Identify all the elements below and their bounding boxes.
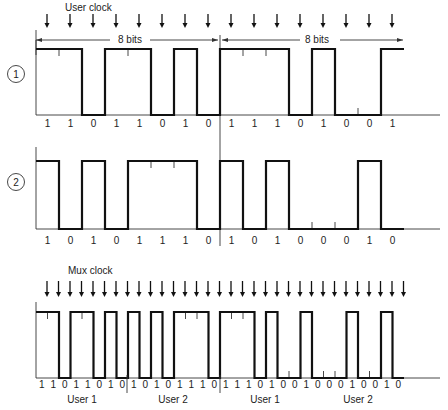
mux-group-label: User 1 (67, 394, 97, 405)
svg-text:1: 1 (229, 235, 235, 246)
svg-text:1: 1 (85, 379, 91, 390)
svg-text:1: 1 (131, 379, 137, 390)
svg-text:1: 1 (234, 379, 240, 390)
svg-text:1: 1 (160, 235, 166, 246)
svg-text:0: 0 (395, 379, 401, 390)
svg-text:0: 0 (165, 379, 171, 390)
svg-text:0: 0 (257, 379, 263, 390)
svg-text:1: 1 (39, 379, 45, 390)
user-clock-label: User clock (65, 2, 113, 13)
svg-text:1: 1 (275, 235, 281, 246)
svg-text:0: 0 (206, 118, 212, 129)
svg-text:1: 1 (45, 118, 51, 129)
svg-text:0: 0 (96, 379, 102, 390)
svg-text:1: 1 (183, 235, 189, 246)
mux-group-label: User 2 (343, 394, 373, 405)
svg-text:1: 1 (269, 379, 275, 390)
svg-text:0: 0 (344, 118, 350, 129)
svg-text:1: 1 (367, 235, 373, 246)
svg-text:1: 1 (177, 379, 183, 390)
svg-text:0: 0 (372, 379, 378, 390)
svg-text:0: 0 (62, 379, 68, 390)
svg-text:1: 1 (50, 379, 56, 390)
svg-text:0: 0 (344, 235, 350, 246)
signal-2-marker: 2 (8, 174, 25, 191)
signal-1-marker: 1 (8, 66, 25, 83)
svg-text:1: 1 (154, 379, 160, 390)
span-label-2: 8 bits (305, 34, 329, 45)
svg-text:1: 1 (246, 379, 252, 390)
svg-text:1: 1 (229, 118, 235, 129)
svg-text:0: 0 (160, 118, 166, 129)
svg-text:1: 1 (91, 235, 97, 246)
svg-text:0: 0 (119, 379, 125, 390)
svg-text:0: 0 (361, 379, 367, 390)
svg-text:1: 1 (114, 118, 120, 129)
svg-text:1: 1 (275, 118, 281, 129)
svg-text:0: 0 (367, 118, 373, 129)
svg-text:1: 1 (137, 235, 143, 246)
svg-text:0: 0 (298, 235, 304, 246)
svg-text:0: 0 (338, 379, 344, 390)
svg-text:1: 1 (321, 118, 327, 129)
svg-text:0: 0 (315, 379, 321, 390)
svg-text:0: 0 (292, 379, 298, 390)
svg-text:0: 0 (321, 235, 327, 246)
svg-text:0: 0 (326, 379, 332, 390)
svg-text:0: 0 (298, 118, 304, 129)
svg-text:0: 0 (114, 235, 120, 246)
svg-text:1: 1 (390, 118, 396, 129)
svg-text:1: 1 (68, 118, 74, 129)
svg-text:0: 0 (211, 379, 217, 390)
svg-text:0: 0 (68, 235, 74, 246)
svg-text:1: 1 (349, 379, 355, 390)
svg-text:1: 1 (137, 118, 143, 129)
svg-text:1: 1 (13, 69, 19, 80)
svg-text:1: 1 (200, 379, 206, 390)
mux-clock-arrows (45, 281, 407, 297)
svg-text:0: 0 (280, 379, 286, 390)
span-label-1: 8 bits (118, 34, 142, 45)
svg-text:1: 1 (303, 379, 309, 390)
svg-text:1: 1 (108, 379, 114, 390)
svg-text:1: 1 (384, 379, 390, 390)
mux-group-label: User 1 (250, 394, 280, 405)
svg-text:1: 1 (45, 235, 51, 246)
user-clock-arrows (45, 14, 395, 28)
svg-text:1: 1 (183, 118, 189, 129)
signal-1-waveform: 1101101011101001 (36, 40, 440, 129)
signal-2-waveform: 1010111010100010 (36, 147, 440, 246)
svg-text:1: 1 (223, 379, 229, 390)
svg-text:1: 1 (188, 379, 194, 390)
svg-text:1: 1 (73, 379, 79, 390)
svg-text:0: 0 (206, 235, 212, 246)
mux-group-label: User 2 (158, 394, 188, 405)
svg-text:0: 0 (390, 235, 396, 246)
svg-text:0: 0 (142, 379, 148, 390)
tdm-diagram: User clock 8 bits 8 bits 1 2 11011010111… (0, 0, 448, 410)
svg-text:0: 0 (252, 235, 258, 246)
mux-clock-label: Mux clock (68, 265, 113, 276)
svg-text:0: 0 (91, 118, 97, 129)
mux-waveform: 11011010101011101110100100010010 (36, 302, 440, 390)
svg-text:1: 1 (252, 118, 258, 129)
svg-text:2: 2 (13, 177, 19, 188)
